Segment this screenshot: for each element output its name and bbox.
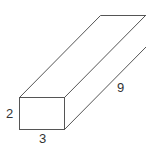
bottom-right-edge [65, 47, 147, 130]
prism-diagram: 2 3 9 [0, 0, 146, 156]
width-label: 3 [39, 132, 46, 145]
height-label: 2 [6, 107, 13, 120]
length-label: 9 [117, 81, 124, 94]
front-face [20, 98, 65, 130]
top-left-edge [20, 16, 101, 98]
prism-drawing [0, 0, 146, 156]
top-right-edge [65, 15, 147, 98]
